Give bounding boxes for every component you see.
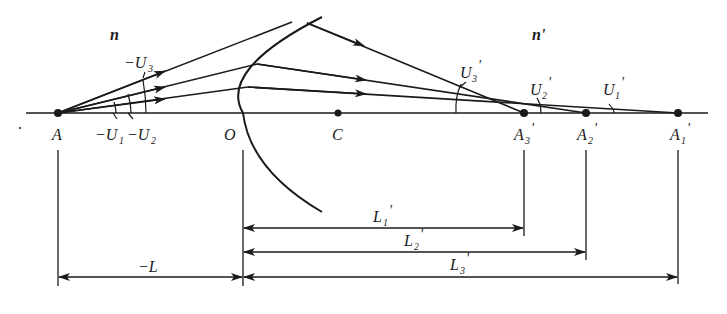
svg-text:': ' — [466, 251, 470, 266]
label-A: A — [51, 126, 62, 143]
stray-dot — [19, 127, 21, 129]
label-U1p: U 1 ' — [603, 75, 625, 101]
point-C — [335, 110, 342, 117]
label-n-prime: n' — [532, 26, 546, 43]
optics-diagram: n n' A O C A 3 ' A 2 ' A 1 ' −U 3 −U 1 −… — [0, 0, 727, 314]
svg-text:A: A — [513, 126, 524, 143]
svg-text:': ' — [420, 227, 424, 242]
svg-text:A: A — [669, 126, 680, 143]
label-neg-L: −L — [138, 258, 158, 275]
svg-text:3: 3 — [459, 265, 465, 276]
svg-text:A: A — [576, 126, 587, 143]
svg-text:3: 3 — [524, 135, 530, 146]
label-L1p: L 1 ' — [372, 203, 393, 228]
label-A1p: A 1 ' — [669, 121, 691, 146]
label-U3p: U 3 ' — [460, 58, 482, 84]
label-n: n — [110, 26, 119, 43]
svg-text:': ' — [389, 203, 393, 218]
point-A3p — [520, 109, 528, 117]
svg-text:3: 3 — [147, 63, 153, 74]
svg-text:': ' — [594, 121, 598, 136]
arrow-icon — [248, 87, 366, 94]
svg-text:3: 3 — [471, 73, 477, 84]
svg-text:': ' — [548, 75, 552, 90]
spherical-surface — [238, 17, 322, 212]
svg-text:1: 1 — [119, 135, 124, 146]
label-O: O — [224, 126, 236, 143]
label-L3p: L 3 ' — [449, 251, 470, 276]
svg-text:2: 2 — [542, 90, 547, 101]
arrow-icon — [257, 64, 366, 80]
svg-text:1: 1 — [615, 90, 620, 101]
angle-arc-U1 — [114, 102, 116, 113]
label-L2p: L 2 ' — [403, 227, 424, 252]
svg-text:2: 2 — [151, 135, 156, 146]
svg-text:−U: −U — [127, 126, 151, 143]
svg-text:L: L — [403, 232, 413, 249]
svg-text:1: 1 — [383, 217, 388, 228]
svg-text:': ' — [621, 75, 625, 90]
svg-text:': ' — [531, 121, 535, 136]
svg-text:−U: −U — [124, 54, 148, 71]
point-A2p — [582, 109, 590, 117]
svg-text:1: 1 — [681, 135, 686, 146]
label-neg-U3: −U 3 — [124, 54, 153, 74]
angle-arc-U3 — [143, 80, 146, 113]
label-A2p: A 2 ' — [576, 121, 598, 146]
angle-arc-U3p — [456, 84, 461, 113]
angle-arc-U2p — [540, 105, 541, 113]
label-neg-U2: −U 2 — [127, 126, 156, 146]
label-A3p: A 3 ' — [513, 121, 535, 146]
svg-text:2: 2 — [414, 241, 419, 252]
arrow-icon — [307, 23, 364, 46]
point-A — [54, 109, 62, 117]
svg-text:L: L — [372, 208, 382, 225]
svg-text:': ' — [478, 58, 482, 73]
svg-text:−U: −U — [95, 126, 119, 143]
label-U2p: U 2 ' — [530, 75, 552, 101]
label-C: C — [332, 126, 343, 143]
diagram-canvas: n n' A O C A 3 ' A 2 ' A 1 ' −U 3 −U 1 −… — [0, 0, 727, 314]
point-A1p — [674, 109, 682, 117]
svg-text:L: L — [449, 256, 459, 273]
svg-text:2: 2 — [588, 135, 593, 146]
label-neg-U1: −U 1 — [95, 126, 124, 146]
svg-text:': ' — [687, 121, 691, 136]
